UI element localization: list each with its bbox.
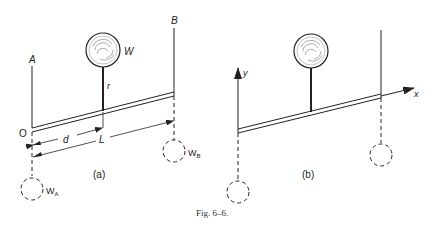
label-r: r	[107, 81, 111, 91]
label-wa: WA	[46, 186, 59, 197]
weight-circle-a2	[227, 181, 249, 203]
label-l: L	[99, 134, 105, 145]
label-origin: O	[19, 128, 27, 139]
label-y: y	[242, 68, 248, 78]
weight-disk-b	[294, 34, 328, 68]
beam-b	[238, 94, 381, 133]
weight-circle-b	[163, 140, 185, 162]
panel-label-b: (b)	[302, 169, 314, 180]
label-x: x	[413, 89, 419, 99]
panel-a: A B r W O	[19, 15, 201, 200]
weight-disk-w	[86, 33, 120, 67]
weight-circle-a	[21, 178, 43, 200]
label-a: A	[28, 54, 36, 65]
label-d: d	[63, 134, 69, 145]
label-w: W	[124, 46, 135, 57]
figure-caption: Fig. 6–6.	[196, 208, 228, 218]
figure-canvas: A B r W O	[0, 0, 432, 226]
panel-b: y x (b)	[227, 30, 419, 203]
label-wb: WB	[188, 148, 201, 159]
weight-circle-b2	[370, 144, 392, 166]
x-axis	[381, 88, 414, 96]
panel-label-a: (a)	[93, 169, 105, 180]
label-b: B	[171, 15, 178, 26]
